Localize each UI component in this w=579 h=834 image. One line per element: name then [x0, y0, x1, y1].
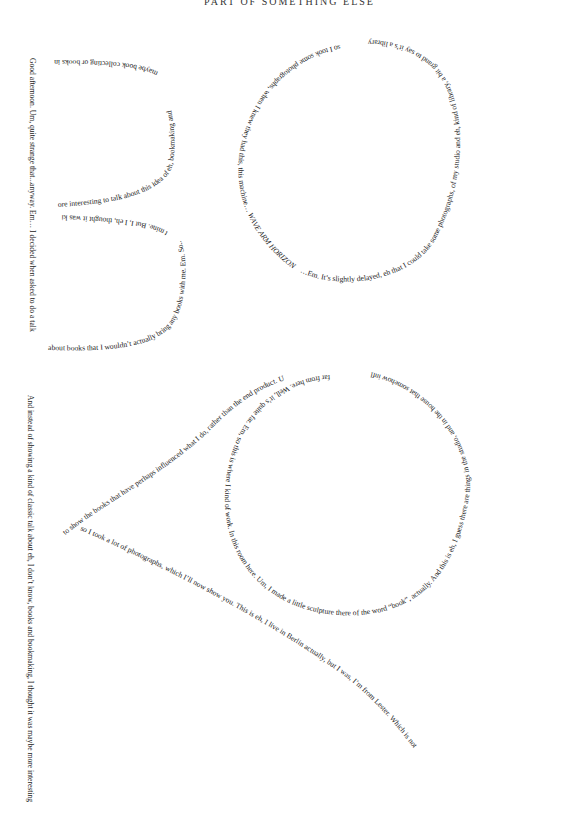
a-upper-diagonal-text: to show the books that have perhaps infl…	[0, 0, 286, 537]
svg-text:Good afternoon. Um, quite stra: Good afternoon. Um, quite strange that..…	[28, 58, 37, 332]
letter-a-text: to show the books that have perhaps infl…	[0, 0, 472, 802]
svg-text:…Em. It’s slightly delayed, eh: …Em. It’s slightly delayed, eh that I co…	[0, 0, 462, 284]
letter-b-text: Good afternoon. Um, quite strange that..…	[0, 0, 188, 352]
a-lower-diagonal-text: so I took a lot of photographs, which I’…	[79, 524, 420, 751]
b-left-text: Good afternoon. Um, quite strange that..…	[28, 58, 37, 332]
o-left-text: so I took some photographs, when I knew …	[236, 43, 341, 215]
concrete-text-artwork: Good afternoon. Um, quite strange that..…	[0, 0, 579, 834]
letter-o-text: so I took some photographs, when I knew …	[0, 0, 462, 284]
svg-text:maybe book collecting or books: maybe book collecting or books in genera…	[0, 0, 159, 78]
svg-text:so I took a lot of photographs: so I took a lot of photographs, which I’…	[79, 524, 420, 751]
b-upper-text: ore interesting to talk about this idea …	[57, 110, 176, 209]
svg-text:ore interesting to talk about: ore interesting to talk about this idea …	[57, 110, 176, 209]
b-top-text: maybe book collecting or books in genera…	[0, 0, 159, 78]
svg-text:And instead of showing a kind: And instead of showing a kind of classic…	[26, 395, 35, 802]
svg-text:to show the books that have pe: to show the books that have perhaps infl…	[0, 0, 286, 537]
o-bottom-text: …Em. It’s slightly delayed, eh that I co…	[0, 0, 462, 284]
a-left-vertical-text: And instead of showing a kind of classic…	[26, 395, 35, 802]
